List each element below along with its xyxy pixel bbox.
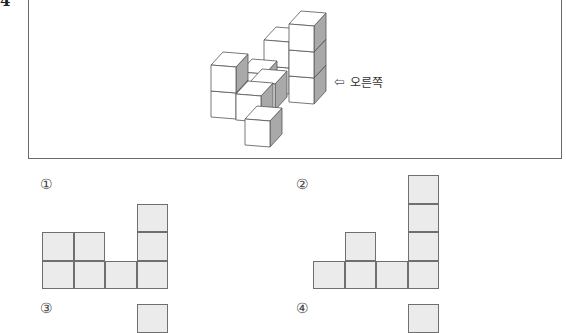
option-3-label[interactable]: ③ — [40, 300, 53, 316]
view-cell — [137, 204, 169, 233]
view-cell — [313, 261, 345, 290]
view-cell — [408, 232, 440, 261]
direction-label: ⇦ 오른쪽 — [334, 73, 383, 90]
view-cell — [345, 232, 377, 261]
view-cell — [105, 261, 137, 290]
direction-text: 오른쪽 — [350, 73, 383, 90]
view-cell — [74, 261, 106, 290]
view-cell — [42, 261, 74, 290]
view-cell — [408, 204, 440, 233]
view-cell — [137, 304, 169, 333]
option-1-label[interactable]: ① — [40, 176, 53, 192]
view-cell — [74, 232, 106, 261]
option-2-label[interactable]: ② — [296, 176, 309, 192]
option-4-label[interactable]: ④ — [296, 300, 309, 316]
view-cell — [345, 261, 377, 290]
view-cell — [376, 261, 408, 290]
view-cell — [408, 261, 440, 290]
view-cell — [137, 261, 169, 290]
view-cell — [42, 232, 74, 261]
view-cell — [137, 232, 169, 261]
stacked-cubes-figure — [0, 0, 566, 170]
view-cell — [408, 175, 440, 204]
view-cell — [408, 304, 440, 333]
left-arrow-icon: ⇦ — [334, 74, 345, 89]
